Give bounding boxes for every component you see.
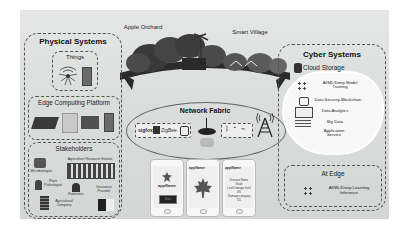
raspberry-pi-icon: [31, 117, 59, 129]
edge-neural-net-icon: [303, 186, 313, 196]
analytics-chart-icon: [295, 107, 313, 118]
stakeholders-title: Stakeholders: [29, 146, 119, 153]
physical-systems-title: Physical Systems: [25, 37, 121, 46]
cloud-storage-title: Cloud Storage: [303, 65, 353, 72]
stakeholder-research-station: Agriculture Research Station: [65, 158, 115, 162]
pathologist-icon: [35, 180, 42, 190]
insurance-icon: [98, 199, 114, 211]
landscape-icon: [120, 28, 290, 96]
stakeholder-agricultural-company: Agricultural Company: [51, 200, 77, 207]
server-icon: [62, 113, 78, 133]
lpwan-protocols-box: sigfox ZigBee: [135, 123, 191, 138]
short-range-protocols-box: ᛒ ◔ ⌁: [221, 123, 253, 138]
phone-screen-3: appName Disease Name Scab Leaf Damage le…: [222, 159, 256, 217]
app-name-label: appName: [153, 184, 181, 188]
app-name-label: appName: [225, 167, 241, 171]
phone-screen-2: appName: [186, 159, 220, 217]
cloud-item-model-training: AI/ML/Deep Model Training: [319, 81, 361, 90]
stakeholders-box: Stakeholders Microbiologist Agriculture …: [28, 142, 120, 217]
at-edge-label: AI/ML/Deep Learning Inference: [325, 186, 373, 195]
things-title: Things: [53, 54, 97, 60]
stakeholder-plant-pathologist: Plant Pathologist: [43, 180, 63, 187]
arduino-icon: [81, 116, 99, 129]
router-antenna: [206, 118, 207, 128]
zigbee-label: ZigBee: [161, 127, 177, 133]
at-edge-box: At Edge AI/ML/Deep Learning Inference: [284, 165, 382, 207]
cyber-systems-title: Cyber Systems: [279, 50, 385, 59]
stakeholder-extension: Extension: [65, 193, 87, 197]
cloud-item-blockchain: Data Security-Blockchain: [307, 98, 369, 102]
network-fabric-title: Network Fabric: [160, 107, 250, 114]
zigbee-logo-icon: [153, 126, 160, 134]
cloud-item-big-data: Big Data: [315, 120, 355, 124]
smart-village-label: Smart Village: [225, 29, 275, 35]
cloud-item-application-service: Application Service: [319, 129, 349, 138]
stakeholder-insurance-provider: Insurance Provider: [93, 186, 115, 193]
app-name-label: appName: [189, 167, 205, 171]
apple-orchard-label: Apple Orchard: [118, 24, 168, 30]
edge-platform-box: Edge Computing Platform: [28, 96, 120, 140]
device-icon: [82, 67, 92, 86]
satellite-icon: ⌁: [241, 125, 245, 133]
orchard-village-scene: [120, 28, 290, 96]
lora-icon: [180, 126, 189, 136]
gateway-icon: [200, 138, 214, 147]
leaf-search-icon: [162, 172, 172, 182]
maple-leaf-icon: [194, 178, 212, 198]
extension-icon: [72, 183, 80, 192]
router-icon: [198, 128, 216, 135]
sensor-icon: [57, 66, 79, 86]
cyber-systems-panel: Cyber Systems Cloud Storage AI/ML/Deep M…: [278, 44, 386, 211]
at-edge-title: At Edge: [285, 171, 381, 178]
big-data-icon: [295, 119, 311, 127]
physical-systems-panel: Physical Systems Things Edge Computing P…: [24, 33, 122, 219]
phone-icon: [104, 113, 114, 132]
diagram-canvas: Apple Orchard Smart Village Physical Sys…: [20, 10, 389, 219]
cell-tower-icon: [255, 112, 275, 138]
microbiologist-icon: [34, 158, 46, 168]
edge-platform-title: Edge Computing Platform: [29, 100, 119, 107]
cloud-item-data-analytics: Data Analytics: [315, 109, 355, 113]
result-category-value: D1: [225, 199, 253, 202]
phone-screen-1: appName Start: [150, 159, 184, 217]
database-icon: [294, 63, 302, 73]
research-station-icon: [67, 163, 115, 179]
neural-net-icon: [297, 81, 307, 91]
company-building-icon: [40, 196, 49, 210]
things-box: Things: [52, 51, 98, 91]
wifi-icon: ◔: [232, 124, 236, 131]
sigfox-label: sigfox: [138, 127, 153, 133]
start-button[interactable]: Start: [159, 195, 177, 204]
stakeholder-microbiologist: Microbiologist: [29, 170, 53, 174]
bluetooth-icon: ᛒ: [225, 125, 229, 132]
